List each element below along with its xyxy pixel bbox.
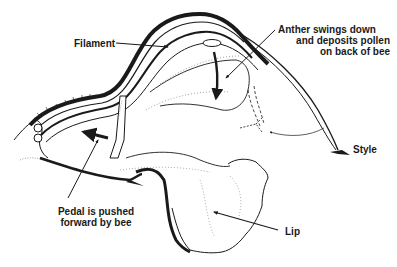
anther-label-line-1: Anther swings down: [278, 24, 390, 35]
anther-swing-arrow: [214, 52, 217, 98]
anther-label-line-2: and deposits pollen: [278, 35, 390, 46]
lip-pointer: [214, 212, 278, 230]
anther-pointer: [226, 30, 275, 78]
pedal-label-line-2: forward by bee: [54, 217, 138, 228]
pedal-label-line-1: Pedal is pushed: [54, 206, 138, 217]
filament-label: Filament: [74, 38, 115, 49]
pedal-label: Pedal is pushed forward by bee: [54, 206, 138, 228]
anther-dashed-position: [240, 86, 264, 132]
anther-label: Anther swings down and deposits pollen o…: [278, 24, 390, 57]
upper-column: [30, 14, 268, 142]
pedal-push-arrow: [84, 132, 108, 138]
lip-structure: [40, 152, 268, 253]
style-motion-arrow: [270, 128, 324, 135]
style-label: Style: [353, 144, 377, 155]
lip-label: Lip: [285, 226, 300, 237]
anther-label-line-3: on back of bee: [278, 46, 390, 57]
flower-diagram: Filament Anther swings down and deposits…: [0, 0, 397, 267]
pedal-base: [14, 96, 126, 162]
